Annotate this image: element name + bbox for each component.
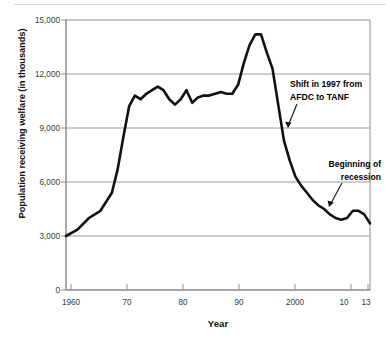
shift-annotation: Shift in 1997 from AFDC to TANF xyxy=(290,78,362,103)
recession-annotation: Beginning of recession xyxy=(305,158,381,183)
recession-annotation-line1: Beginning of xyxy=(305,158,381,171)
y-axis xyxy=(61,20,66,290)
shift-annotation-line1: Shift in 1997 from xyxy=(290,78,362,91)
welfare-population-chart: Population receiving welfare (in thousan… xyxy=(0,0,390,339)
plot-area xyxy=(66,20,370,290)
shift-annotation-line2: AFDC to TANF xyxy=(290,91,362,104)
recession-annotation-line2: recession xyxy=(305,171,381,184)
